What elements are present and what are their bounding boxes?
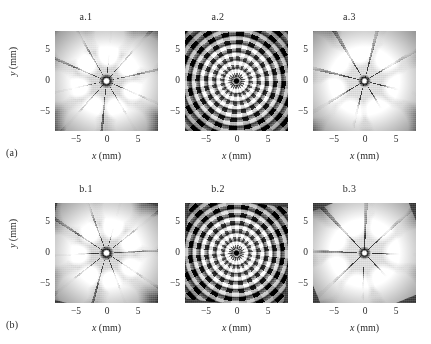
x-tick-b2-0: 0 bbox=[227, 306, 247, 316]
y-tick-a2-5: 5 bbox=[154, 44, 180, 54]
x-tick-b3-neg5: −5 bbox=[324, 306, 344, 316]
y-tick-b3-neg5: −5 bbox=[282, 278, 308, 288]
y-tick-a3-5: 5 bbox=[282, 44, 308, 54]
y-axis-label-b1: y (mm) bbox=[7, 204, 18, 264]
panel-a3: a.3 5 0 −5 −5 0 5 x (mm) bbox=[268, 0, 431, 172]
panel-title-b3: b.3 bbox=[268, 183, 431, 194]
y-tick-b1-0: 0 bbox=[24, 247, 50, 257]
y-tick-a2-0: 0 bbox=[154, 75, 180, 85]
y-tick-a1-0: 0 bbox=[24, 75, 50, 85]
figure-row-a: (a) a.1 y (mm) 5 0 −5 −5 0 5 x (mm) a.2 … bbox=[0, 0, 431, 172]
figure-panel-grid: (a) a.1 y (mm) 5 0 −5 −5 0 5 x (mm) a.2 … bbox=[0, 0, 431, 344]
y-tick-b3-5: 5 bbox=[282, 216, 308, 226]
y-tick-b2-5: 5 bbox=[154, 216, 180, 226]
panel-b3: b.3 5 0 −5 −5 0 5 x (mm) bbox=[268, 172, 431, 344]
y-tick-b2-neg5: −5 bbox=[154, 278, 180, 288]
figure-row-b: (b) b.1 y (mm) 5 0 −5 −5 0 5 x (mm) b.2 … bbox=[0, 172, 431, 344]
x-tick-a3-0: 0 bbox=[355, 134, 375, 144]
x-tick-a2-neg5: −5 bbox=[196, 134, 216, 144]
x-tick-b3-0: 0 bbox=[355, 306, 375, 316]
x-tick-a1-0: 0 bbox=[97, 134, 117, 144]
y-tick-b1-5: 5 bbox=[24, 216, 50, 226]
x-tick-a3-neg5: −5 bbox=[324, 134, 344, 144]
x-tick-b1-neg5: −5 bbox=[66, 306, 86, 316]
x-tick-a2-0: 0 bbox=[227, 134, 247, 144]
heatmap-a3[interactable] bbox=[313, 31, 416, 131]
y-tick-a3-neg5: −5 bbox=[282, 106, 308, 116]
vignette-overlay-a3 bbox=[313, 31, 416, 131]
x-tick-b2-neg5: −5 bbox=[196, 306, 216, 316]
y-tick-a2-neg5: −5 bbox=[154, 106, 180, 116]
y-tick-b2-0: 0 bbox=[154, 247, 180, 257]
y-tick-a1-5: 5 bbox=[24, 44, 50, 54]
panel-title-a3: a.3 bbox=[268, 11, 431, 22]
x-tick-a3-5: 5 bbox=[386, 134, 406, 144]
y-axis-label-a1: y (mm) bbox=[7, 32, 18, 92]
x-axis-label-b3: x (mm) bbox=[313, 322, 416, 333]
x-tick-a1-neg5: −5 bbox=[66, 134, 86, 144]
y-tick-b1-neg5: −5 bbox=[24, 278, 50, 288]
vignette-overlay-b3 bbox=[313, 203, 416, 303]
x-axis-label-a3: x (mm) bbox=[313, 150, 416, 161]
x-tick-b3-5: 5 bbox=[386, 306, 406, 316]
heatmap-b3[interactable] bbox=[313, 203, 416, 303]
y-tick-b3-0: 0 bbox=[282, 247, 308, 257]
y-tick-a1-neg5: −5 bbox=[24, 106, 50, 116]
x-tick-b1-0: 0 bbox=[97, 306, 117, 316]
y-tick-a3-0: 0 bbox=[282, 75, 308, 85]
